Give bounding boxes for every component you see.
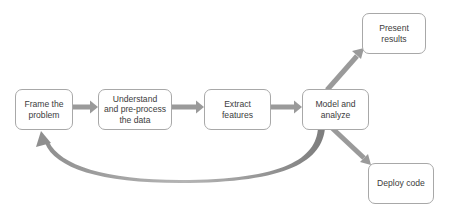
node-label: Understand and pre-process the data [104,94,166,126]
arrow-frame-to-understand [72,101,98,114]
node-label: Deploy code [377,178,425,189]
node-label: Frame the problem [24,99,63,120]
arrow-model-to-frame-feedback [36,128,325,183]
node-label: Extract features [222,99,253,120]
node-label: Model and analyze [315,99,355,120]
node-understand-and-preprocess: Understand and pre-process the data [98,89,172,130]
node-deploy-code: Deploy code [368,163,434,204]
diagram-canvas: Frame the problem Understand and pre-pro… [0,0,449,212]
arrow-model-to-present [327,48,364,90]
arrow-model-to-deploy [332,128,371,165]
node-frame-the-problem: Frame the problem [15,89,73,130]
node-model-and-analyze: Model and analyze [302,89,369,130]
node-extract-features: Extract features [204,89,271,130]
node-present-results: Present results [362,13,426,54]
arrow-understand-to-extract [171,101,204,114]
node-label: Present results [379,23,409,44]
arrow-extract-to-model [270,101,302,114]
